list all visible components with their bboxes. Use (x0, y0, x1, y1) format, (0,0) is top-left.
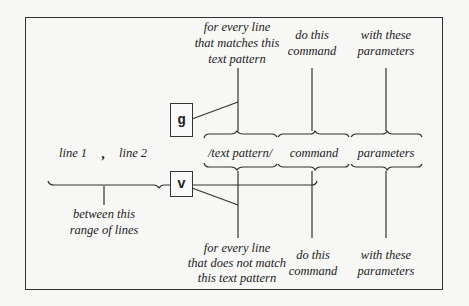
label-command: command (290, 146, 339, 161)
label-nomatch-3: this text pattern (198, 271, 276, 286)
inverse-command-box: v (170, 171, 193, 197)
label-range-2: range of lines (70, 223, 139, 238)
label-match-1: for every line (204, 20, 271, 35)
label-bottom-params-1: with these (361, 248, 411, 263)
label-bottom-params-2: parameters (358, 264, 415, 279)
label-nomatch-2: that does not match (188, 256, 286, 271)
label-line1: line 1 (59, 146, 87, 161)
label-parameters: parameters (358, 146, 415, 161)
label-top-params-2: parameters (358, 44, 415, 59)
label-match-3: text pattern (208, 52, 265, 67)
label-bottom-command-2: command (289, 264, 338, 279)
label-bottom-command-1: do this (296, 248, 330, 263)
label-range-1: between this (73, 207, 135, 222)
global-command-box: g (170, 103, 193, 137)
label-line2: line 2 (119, 146, 147, 161)
label-match-2: that matches this (195, 36, 280, 51)
label-comma: , (101, 146, 105, 161)
label-top-command-1: do this (295, 28, 329, 43)
label-pattern: /text pattern/ (208, 146, 272, 161)
label-top-params-1: with these (361, 28, 411, 43)
label-nomatch-1: for every line (204, 241, 271, 256)
label-top-command-2: command (288, 44, 337, 59)
